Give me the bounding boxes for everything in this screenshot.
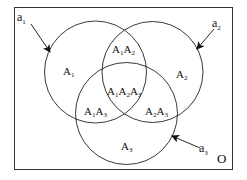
region-a2-only: A2	[176, 68, 188, 82]
universe-label: O	[217, 151, 226, 166]
venn-diagram: a1 a2 a3 O A1 A2 A3 A1A2 A1A3 A2A3 A1A2A…	[0, 0, 247, 180]
pointer-label-a3: a3	[199, 141, 208, 157]
region-a1a3: A1A3	[84, 105, 107, 119]
arrow-a3-icon	[172, 136, 200, 148]
region-a1a2a3: A1A2A3	[107, 85, 142, 99]
region-a1a2: A1A2	[112, 43, 135, 57]
region-a2a3: A2A3	[145, 105, 168, 119]
arrow-a1-icon	[31, 24, 50, 52]
arrow-a2-icon	[197, 29, 214, 49]
region-a1-only: A1	[63, 65, 75, 79]
region-a3-only: A3	[121, 140, 133, 154]
pointer-label-a1: a1	[17, 10, 26, 26]
pointer-label-a2: a2	[212, 16, 221, 32]
